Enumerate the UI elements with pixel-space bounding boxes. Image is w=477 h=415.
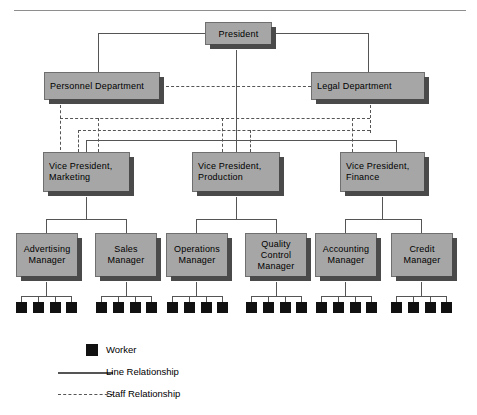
node-credit-manager-label: Credit Manager bbox=[395, 244, 449, 266]
node-vp-marketing[interactable]: Vice President, Marketing bbox=[43, 152, 130, 192]
node-personnel-department-label: Personnel Department bbox=[50, 81, 155, 92]
line-vp-marketing-drop bbox=[86, 197, 87, 219]
node-vp-production[interactable]: Vice President, Production bbox=[192, 152, 280, 192]
node-sales-manager-line1: Sales bbox=[114, 244, 138, 254]
org-chart-canvas: President Personnel Department Legal Dep… bbox=[0, 0, 477, 415]
worker-node[interactable] bbox=[280, 302, 291, 313]
line-to-advertising-manager bbox=[46, 219, 47, 233]
legend-worker-label: Worker bbox=[106, 344, 136, 355]
staff-drop-personnel bbox=[60, 105, 61, 150]
worker-node[interactable] bbox=[33, 302, 44, 313]
worker-node[interactable] bbox=[296, 302, 307, 313]
node-personnel-department[interactable]: Personnel Department bbox=[44, 72, 160, 100]
node-vp-marketing-line2: Marketing bbox=[49, 172, 90, 182]
node-operations-manager-line1: Operations bbox=[174, 244, 220, 254]
worker-node[interactable] bbox=[66, 302, 77, 313]
legend-row-worker: Worker bbox=[28, 341, 288, 363]
legend: Worker Line Relationship Staff Relations… bbox=[28, 341, 288, 407]
worker-square-icon bbox=[86, 344, 98, 356]
node-accounting-manager-line1: Accounting bbox=[323, 244, 370, 254]
line-sales-worker-bus bbox=[101, 296, 151, 297]
node-sales-manager-line2: Manager bbox=[108, 255, 145, 265]
line-operations-worker-bus bbox=[172, 296, 222, 297]
node-operations-manager[interactable]: Operations Manager bbox=[166, 233, 228, 277]
staff-link-to-vp-production-b bbox=[250, 130, 251, 152]
worker-node[interactable] bbox=[96, 302, 107, 313]
worker-node[interactable] bbox=[391, 302, 402, 313]
node-vp-finance[interactable]: Vice President, Finance bbox=[340, 152, 425, 192]
node-legal-department-label: Legal Department bbox=[317, 81, 420, 92]
node-president-label: President bbox=[209, 28, 268, 39]
line-vp-bus bbox=[86, 140, 396, 141]
top-divider-rule bbox=[14, 10, 466, 11]
worker-node[interactable] bbox=[113, 302, 124, 313]
legend-row-line-relationship: Line Relationship bbox=[28, 363, 288, 385]
node-sales-manager[interactable]: Sales Manager bbox=[95, 233, 157, 277]
staff-link-to-vp-finance bbox=[352, 118, 353, 152]
staff-bus-legal bbox=[78, 130, 370, 131]
node-vp-production-line1: Vice President, bbox=[198, 161, 261, 171]
line-credit-worker-bus bbox=[396, 296, 446, 297]
line-vp-production-drop bbox=[236, 197, 237, 219]
node-vp-marketing-label: Vice President, Marketing bbox=[49, 161, 125, 183]
node-quality-control-manager-line3: Manager bbox=[258, 261, 295, 271]
worker-node[interactable] bbox=[333, 302, 344, 313]
line-operations-drop bbox=[196, 282, 197, 296]
node-vp-finance-line1: Vice President, bbox=[346, 161, 409, 171]
node-quality-control-manager-label: Quality Control Manager bbox=[249, 239, 303, 272]
node-vp-finance-line2: Finance bbox=[346, 172, 379, 182]
line-bus-to-vp-finance bbox=[396, 140, 397, 152]
node-credit-manager-line2: Manager bbox=[404, 255, 441, 265]
node-accounting-manager-label: Accounting Manager bbox=[319, 244, 373, 266]
line-accounting-drop bbox=[345, 282, 346, 296]
worker-node[interactable] bbox=[16, 302, 27, 313]
staff-drop-legal bbox=[370, 105, 371, 133]
node-advertising-manager-label: Advertising Manager bbox=[20, 244, 74, 266]
staff-bus-personnel bbox=[60, 118, 370, 119]
worker-node[interactable] bbox=[130, 302, 141, 313]
line-president-bus-right bbox=[272, 33, 368, 34]
node-quality-control-manager-line1: Quality bbox=[261, 239, 290, 249]
worker-node[interactable] bbox=[184, 302, 195, 313]
node-vp-marketing-line1: Vice President, bbox=[49, 161, 112, 171]
line-vp-marketing-bus bbox=[46, 219, 126, 220]
worker-node[interactable] bbox=[217, 302, 228, 313]
node-credit-manager-line1: Credit bbox=[409, 244, 434, 254]
line-sales-drop bbox=[126, 282, 127, 296]
worker-node[interactable] bbox=[201, 302, 212, 313]
node-advertising-manager-line1: Advertising bbox=[24, 244, 71, 254]
line-vp-finance-bus bbox=[345, 219, 421, 220]
worker-node[interactable] bbox=[316, 302, 327, 313]
line-to-sales-manager bbox=[126, 219, 127, 233]
dashed-line-icon bbox=[58, 394, 113, 395]
worker-node[interactable] bbox=[167, 302, 178, 313]
worker-node[interactable] bbox=[366, 302, 377, 313]
line-quality-control-drop bbox=[276, 282, 277, 296]
worker-node[interactable] bbox=[441, 302, 452, 313]
line-president-to-personnel bbox=[98, 33, 99, 72]
worker-node[interactable] bbox=[408, 302, 419, 313]
line-quality-control-worker-bus bbox=[251, 296, 301, 297]
node-credit-manager[interactable]: Credit Manager bbox=[391, 233, 453, 277]
line-president-bus-left bbox=[98, 33, 205, 34]
worker-node[interactable] bbox=[146, 302, 157, 313]
worker-node[interactable] bbox=[350, 302, 361, 313]
line-accounting-worker-bus bbox=[321, 296, 371, 297]
node-quality-control-manager-line2: Control bbox=[261, 250, 291, 260]
node-advertising-manager[interactable]: Advertising Manager bbox=[16, 233, 78, 277]
node-president[interactable]: President bbox=[205, 22, 272, 45]
node-operations-manager-line2: Manager bbox=[179, 255, 216, 265]
worker-node[interactable] bbox=[263, 302, 274, 313]
node-vp-finance-label: Vice President, Finance bbox=[346, 161, 420, 183]
line-vp-finance-drop bbox=[382, 197, 383, 219]
node-advertising-manager-line2: Manager bbox=[29, 255, 66, 265]
node-vp-production-line2: Production bbox=[198, 172, 243, 182]
node-accounting-manager[interactable]: Accounting Manager bbox=[315, 233, 377, 277]
worker-node[interactable] bbox=[246, 302, 257, 313]
worker-node[interactable] bbox=[425, 302, 436, 313]
legend-staff-relationship-label: Staff Relationship bbox=[106, 388, 180, 399]
node-legal-department[interactable]: Legal Department bbox=[311, 72, 425, 100]
worker-node[interactable] bbox=[50, 302, 61, 313]
staff-link-to-vp-marketing bbox=[98, 118, 99, 152]
node-quality-control-manager[interactable]: Quality Control Manager bbox=[245, 233, 307, 277]
